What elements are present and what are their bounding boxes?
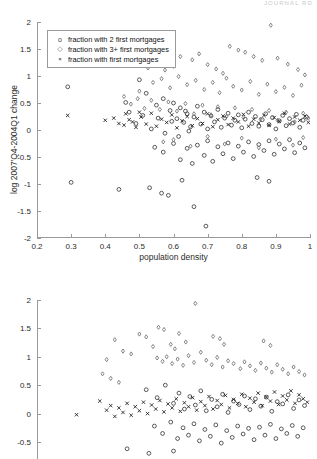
plot-area-top: 21.510.50-0.5-1-1.5-2 0.20.30.40.50.60.7… bbox=[37, 22, 310, 238]
x-tick-label: 0.5 bbox=[134, 242, 145, 251]
y-tick bbox=[37, 103, 41, 104]
x-tick bbox=[105, 234, 106, 238]
x-tick bbox=[139, 234, 140, 238]
y-tick-label: -1 bbox=[24, 180, 31, 189]
y-tick-label: 1 bbox=[27, 72, 31, 81]
y-tick bbox=[37, 130, 41, 131]
scatter-points-bottom bbox=[37, 300, 310, 459]
x-tick-label: 0.9 bbox=[270, 242, 281, 251]
x-tick-label: 0.2 bbox=[31, 242, 42, 251]
x-tick-label: 0.3 bbox=[66, 242, 77, 251]
y-tick bbox=[37, 184, 41, 185]
x-tick bbox=[242, 234, 243, 238]
y-tick-label: 0 bbox=[27, 409, 31, 418]
x-axis-title-top: population density bbox=[139, 252, 208, 262]
legend-label: fraction with first mortgages bbox=[68, 55, 158, 64]
x-marker-icon: × bbox=[52, 56, 68, 62]
legend-item: × fraction with first mortgages bbox=[52, 54, 169, 64]
panel-bottom: log 2007'Q4-2004Q1 change 21.510.50-0.5 bbox=[0, 290, 317, 459]
legend-label: fraction with 2 first mortgages bbox=[68, 35, 165, 44]
y-tick-label: -0.5 bbox=[17, 437, 31, 446]
y-axis-title-top: log 2007'Q4-2004Q1 change bbox=[9, 85, 19, 194]
panel-top: log 2007'Q4-2004Q1 change 21.510.50-0.5-… bbox=[0, 16, 317, 264]
x-tick bbox=[174, 234, 175, 238]
plot-area-bottom: 21.510.50-0.5 bbox=[37, 300, 310, 459]
y-tick-label: 2 bbox=[27, 18, 31, 27]
y-tick bbox=[37, 328, 41, 329]
y-tick-label: -0.5 bbox=[17, 153, 31, 162]
x-tick bbox=[71, 234, 72, 238]
legend-item: o fraction with 2 first mortgages bbox=[52, 34, 169, 44]
y-tick bbox=[37, 211, 41, 212]
circle-marker-icon: o bbox=[52, 36, 68, 43]
y-tick bbox=[37, 76, 41, 77]
x-tick-label: 0.8 bbox=[236, 242, 247, 251]
y-tick bbox=[37, 357, 41, 358]
y-tick bbox=[37, 414, 41, 415]
legend-top: o fraction with 2 first mortgages ◇ frac… bbox=[47, 30, 176, 68]
x-tick bbox=[310, 234, 311, 238]
y-tick bbox=[37, 300, 41, 301]
y-tick-label: 1.5 bbox=[20, 324, 31, 333]
y-tick-label: 2 bbox=[27, 296, 31, 305]
x-tick-label: 0.7 bbox=[202, 242, 213, 251]
x-tick bbox=[37, 234, 38, 238]
figure-container: JOURNAL RD log 2007'Q4-2004Q1 change 21.… bbox=[0, 0, 317, 459]
x-tick bbox=[208, 234, 209, 238]
legend-item: ◇ fraction with 3+ first mortgages bbox=[52, 44, 169, 54]
y-tick bbox=[37, 385, 41, 386]
y-tick bbox=[37, 238, 41, 239]
y-tick-label: -2 bbox=[24, 234, 31, 243]
y-tick-label: 0.5 bbox=[20, 381, 31, 390]
diamond-marker-icon: ◇ bbox=[52, 45, 68, 53]
y-tick-label: 1 bbox=[27, 352, 31, 361]
y-tick bbox=[37, 157, 41, 158]
y-tick bbox=[37, 22, 41, 23]
x-tick-label: 1 bbox=[308, 242, 312, 251]
y-tick-label: -1.5 bbox=[17, 207, 31, 216]
y-tick bbox=[37, 442, 41, 443]
y-tick-label: 1.5 bbox=[20, 45, 31, 54]
x-tick-label: 0.4 bbox=[100, 242, 111, 251]
legend-label: fraction with 3+ first mortgages bbox=[68, 45, 169, 54]
x-tick-label: 0.6 bbox=[168, 242, 179, 251]
y-tick-label: 0.5 bbox=[20, 99, 31, 108]
running-head: JOURNAL RD bbox=[264, 0, 313, 6]
y-tick-label: 0 bbox=[27, 126, 31, 135]
y-tick bbox=[37, 49, 41, 50]
x-tick bbox=[276, 234, 277, 238]
